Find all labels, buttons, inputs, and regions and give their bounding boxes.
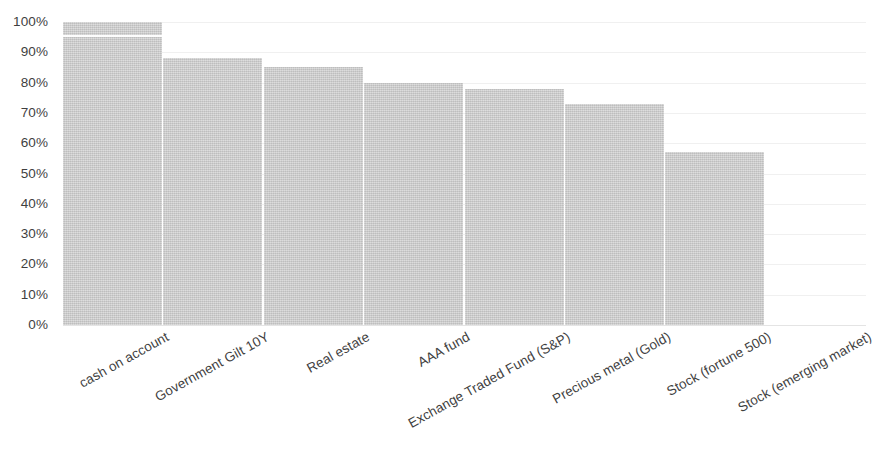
bar[interactable]: [163, 58, 262, 325]
y-axis-tick-label: 30%: [0, 227, 48, 241]
bar-slot[interactable]: [163, 22, 262, 325]
bar[interactable]: [465, 89, 564, 325]
bar[interactable]: [264, 67, 363, 325]
y-axis-tick-label: 90%: [0, 46, 48, 60]
y-axis-tick-label: 20%: [0, 258, 48, 272]
bar-slot[interactable]: [665, 22, 764, 325]
y-axis-tick-label: 50%: [0, 167, 48, 181]
gridline: [63, 325, 866, 326]
y-axis-tick-label: 100%: [0, 15, 48, 29]
bar-slot[interactable]: [364, 22, 463, 325]
x-axis-category-label: Real estate: [46, 330, 373, 465]
y-axis-tick-label: 80%: [0, 76, 48, 90]
y-axis-tick-label: 70%: [0, 106, 48, 120]
bar[interactable]: [364, 83, 463, 325]
bar-slot[interactable]: [565, 22, 664, 325]
scan-artifact-line: [63, 35, 162, 37]
bar-chart: 0%10%20%30%40%50%60%70%80%90%100% cash o…: [0, 0, 873, 465]
bar[interactable]: [63, 22, 162, 325]
x-axis: cash on accountGovernment Gilt 10YReal e…: [0, 330, 873, 465]
y-axis-tick-label: 40%: [0, 197, 48, 211]
bar[interactable]: [665, 152, 764, 325]
y-axis: 0%10%20%30%40%50%60%70%80%90%100%: [0, 22, 56, 325]
y-axis-tick-label: 10%: [0, 288, 48, 302]
bar-slot[interactable]: [465, 22, 564, 325]
bar-slot[interactable]: [63, 22, 162, 325]
bar[interactable]: [565, 104, 664, 325]
y-axis-tick-label: 60%: [0, 136, 48, 150]
plot-area: [63, 22, 866, 325]
bar-slot[interactable]: [264, 22, 363, 325]
bar-slot[interactable]: [766, 22, 865, 325]
